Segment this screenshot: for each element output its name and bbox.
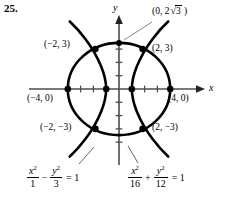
hyperbola-term-2-denominator: 3 [52,178,61,190]
point-2-neg3 [139,126,146,133]
x-axis-arrow [196,85,205,93]
y-axis-arrow [115,15,123,24]
label-top-vertex: (0, 2√3 ) [152,5,187,17]
ellipse-term-1-numerator: x2 [129,166,141,177]
label-lower-left-intersection: (−2, −3) [40,123,71,133]
hyperbola-left-upper [70,22,106,90]
hyperbola-equals: = 1 [66,172,79,183]
ellipse-term-1: x2 16 [128,166,142,189]
hyperbola-term-1-denominator: 1 [28,178,37,190]
label-upper-right-intersection: (2, 3) [152,44,173,54]
label-lower-right-intersection: (2, −3) [152,123,178,133]
hyperbola-term-2: y2 3 [50,166,62,189]
ellipse-term-2-denominator: 12 [154,178,168,190]
point-neg2-neg3 [92,126,99,133]
point-0-2sqrt3 [116,40,122,46]
label-top-vertex-close: ) [182,6,188,16]
hyperbola-term-2-numerator: y2 [50,166,62,177]
point-neg4-0 [65,86,72,93]
ellipse-operator: + [145,172,151,183]
figure-page: 25. [0,0,227,207]
label-top-vertex-open: (0, 2 [152,6,169,16]
point-hyperbola-left-vertex [103,86,110,93]
ellipse-term-2: y2 12 [154,166,168,189]
x-axis-label: x [209,83,213,93]
leader-line-top-vertex [124,22,152,40]
leader-line-ellipse-equation [128,146,138,163]
y-axis-label: y [113,3,117,13]
point-neg2-3 [92,46,99,53]
y-axis [115,15,123,165]
x-axis [29,85,205,93]
hyperbola-term-1: x2 1 [27,166,39,189]
hyperbola-operator: − [42,172,48,183]
point-hyperbola-right-vertex [129,86,136,93]
hyperbola-equation: x2 1 − y2 3 = 1 [26,166,79,189]
hyperbola-term-1-numerator: x2 [27,166,39,177]
label-left-vertex: (−4, 0) [27,94,53,104]
point-2-3 [139,46,146,53]
ellipse-term-2-numerator: y2 [155,166,167,177]
ellipse-equals: = 1 [172,172,185,183]
ellipse-equation: x2 16 + y2 12 = 1 [127,166,185,189]
label-upper-left-intersection: (−2, 3) [44,40,70,50]
leader-line-hyperbola-equation [79,147,94,164]
square-root-icon: √3 [169,5,181,17]
ellipse-term-1-denominator: 16 [128,178,142,190]
label-right-vertex: (4, 0) [168,94,189,104]
point-4-0 [167,86,174,93]
hyperbola-left-lower [70,89,106,157]
